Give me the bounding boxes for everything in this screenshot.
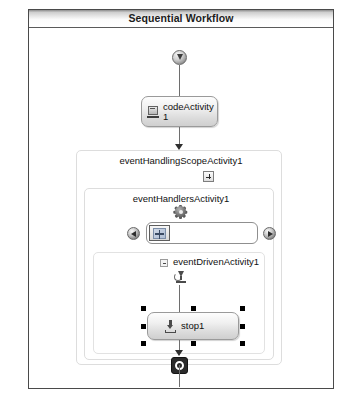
selection-handle-bottom-center[interactable] [191, 341, 196, 346]
code-activity-icon [147, 106, 160, 118]
selection-handles[interactable] [141, 306, 245, 346]
selection-handle-middle-left[interactable] [141, 324, 146, 329]
selection-handle-top-left[interactable] [141, 306, 146, 311]
designer-title-bar: Sequential Workflow [29, 10, 333, 28]
selection-handle-bottom-left[interactable] [141, 341, 146, 346]
connector-start-to-code [179, 65, 180, 96]
activity-code-activity[interactable]: codeActivity 1 [141, 96, 218, 127]
workflow-designer-frame: Sequential Workflow codeActivity 1 event… [28, 9, 334, 389]
page-title: Sequential Workflow [29, 12, 333, 24]
scope-event-handling-scope-label: eventHandlingScopeActivity1 [29, 155, 333, 166]
event-handler-tabstrip[interactable] [146, 222, 258, 244]
selection-handle-top-right[interactable] [240, 306, 245, 311]
scope-event-driven-label: eventDrivenActivity1 [173, 256, 259, 267]
arrowhead-scope-exit [175, 350, 183, 356]
activity-code-activity-label: codeActivity 1 [160, 102, 214, 122]
scroll-left-arrow[interactable] [127, 227, 140, 240]
scope-event-handlers-label: eventHandlersActivity1 [29, 193, 333, 204]
expand-box-icon[interactable] [203, 171, 214, 182]
collapse-box-icon[interactable] [160, 259, 168, 267]
connector-code-to-scope [179, 127, 180, 145]
event-driven-icon [174, 271, 187, 284]
workflow-start-icon[interactable] [172, 50, 187, 65]
selection-handle-middle-right[interactable] [240, 324, 245, 329]
selection-handle-top-center[interactable] [191, 306, 196, 311]
gear-icon [174, 205, 187, 218]
start-arrow-glyph [177, 54, 183, 60]
event-handler-tab-1[interactable] [149, 225, 170, 241]
chevron-right-icon [268, 231, 273, 237]
connector-scope-to-end [179, 365, 180, 387]
selection-handle-bottom-right[interactable] [240, 341, 245, 346]
chevron-left-icon [131, 231, 136, 237]
workflow-canvas[interactable]: codeActivity 1 eventHandlingScopeActivit… [29, 28, 333, 388]
scroll-right-arrow[interactable] [263, 227, 276, 240]
